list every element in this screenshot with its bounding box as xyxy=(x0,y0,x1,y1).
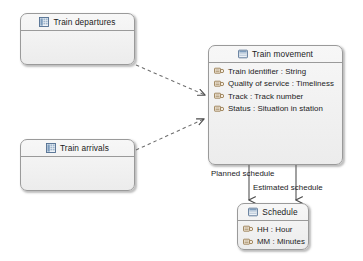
attribute-row[interactable]: Track : Track number xyxy=(209,90,342,103)
class-header-train-departures: Train departures xyxy=(21,14,134,31)
attribute-label: MM : Minutes xyxy=(257,237,305,246)
attribute-label: Status : Situation in station xyxy=(228,104,323,113)
attribute-label: Quality of service : Timeliness xyxy=(228,79,334,88)
class-box-train-movement[interactable]: Train movement Train identifier : String xyxy=(208,45,343,165)
edge-label-planned-schedule: Planned schedule xyxy=(211,169,275,178)
class-name-train-arrivals: Train arrivals xyxy=(60,143,109,153)
class-box-train-departures[interactable]: Train departures xyxy=(20,13,135,65)
class-header-train-arrivals: Train arrivals xyxy=(21,140,134,157)
class-name-schedule: Schedule xyxy=(262,207,297,217)
attribute-row[interactable]: Train identifier : String xyxy=(209,65,342,78)
window-icon xyxy=(238,49,248,59)
attribute-label: Track : Track number xyxy=(228,92,303,101)
attribute-icon xyxy=(243,225,253,233)
edge-label-estimated-schedule: Estimated schedule xyxy=(253,183,323,192)
class-box-schedule[interactable]: Schedule HH : Hour xyxy=(237,203,309,250)
edge-arrivals-to-movement xyxy=(136,119,204,150)
table-icon xyxy=(39,17,49,27)
uml-class-diagram-canvas: Train departures Train arrivals xyxy=(0,0,363,261)
attribute-row[interactable]: Status : Situation in station xyxy=(209,103,342,116)
edge-departures-to-movement xyxy=(136,65,205,95)
class-header-train-movement: Train movement xyxy=(209,46,342,63)
attribute-icon xyxy=(243,238,253,246)
attribute-row[interactable]: MM : Minutes xyxy=(238,236,308,249)
attribute-icon xyxy=(214,80,224,88)
attribute-icon xyxy=(214,67,224,75)
class-header-schedule: Schedule xyxy=(238,204,308,221)
window-icon xyxy=(248,207,258,217)
attribute-icon xyxy=(214,105,224,113)
class-attributes-train-movement: Train identifier : String Quality of ser… xyxy=(209,63,342,117)
class-name-train-departures: Train departures xyxy=(53,17,115,27)
attribute-label: Train identifier : String xyxy=(228,67,306,76)
class-attributes-schedule: HH : Hour MM : Minutes xyxy=(238,221,308,250)
attribute-label: HH : Hour xyxy=(257,225,293,234)
attribute-row[interactable]: Quality of service : Timeliness xyxy=(209,78,342,91)
class-box-train-arrivals[interactable]: Train arrivals xyxy=(20,139,135,191)
attribute-icon xyxy=(214,92,224,100)
attribute-row[interactable]: HH : Hour xyxy=(238,223,308,236)
table-icon xyxy=(46,143,56,153)
class-name-train-movement: Train movement xyxy=(252,49,313,59)
